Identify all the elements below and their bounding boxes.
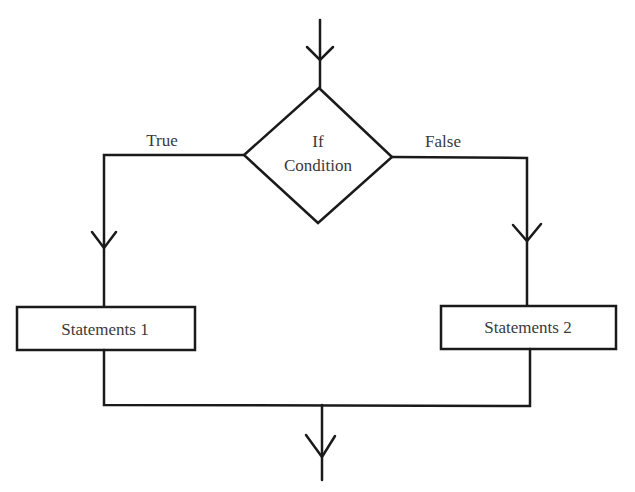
merge-connector: [104, 349, 530, 406]
true-branch-connector: [92, 155, 244, 307]
false-label: False: [425, 132, 461, 151]
false-branch-connector: [392, 157, 541, 306]
statements-2-label: Statements 2: [484, 318, 571, 337]
true-label: True: [146, 131, 178, 150]
statements-1-label: Statements 1: [61, 320, 148, 339]
decision-label-line1: If: [312, 132, 324, 151]
decision-label-line2: Condition: [284, 156, 353, 175]
exit-arrow: [306, 405, 335, 480]
entry-arrow: [307, 20, 333, 88]
flowchart: If Condition True False Statements 1 Sta…: [0, 0, 635, 492]
